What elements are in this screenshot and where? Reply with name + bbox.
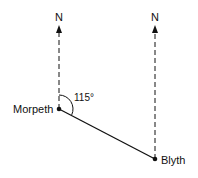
angle-label: 115° [74,92,94,103]
bearing-line [59,109,155,159]
point-blyth [153,157,158,162]
north-arrow-icon [56,25,62,33]
north-arrow-icon [152,25,158,33]
bearing-diagram: N N 115° Morpeth Blyth [0,0,198,178]
point-morpeth [57,107,62,112]
north-label-blyth: N [151,11,159,23]
label-blyth: Blyth [161,154,185,166]
diagram-svg: N N 115° Morpeth Blyth [0,0,198,178]
north-label-morpeth: N [55,11,63,23]
label-morpeth: Morpeth [13,103,53,115]
